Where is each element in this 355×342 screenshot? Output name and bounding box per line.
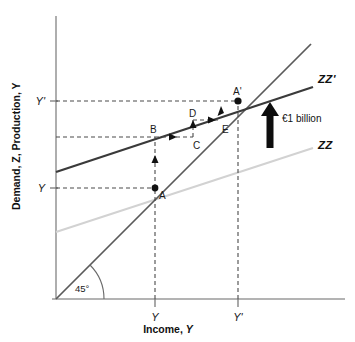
angle-arc <box>90 265 104 299</box>
shift-arrow-group <box>261 102 279 148</box>
point-label-d: D <box>189 108 196 119</box>
x-tick-label-y: Y <box>151 311 159 323</box>
arrow-d-to-e <box>208 117 216 124</box>
demand-curve-zz-prime <box>56 87 313 172</box>
point-label-b: B <box>150 124 157 135</box>
angle-label-45: 45° <box>75 283 90 294</box>
x-axis-title-prefix: Income, <box>143 323 186 335</box>
shift-callout-label: €1 billion <box>282 113 321 124</box>
y-tick-label-y-prime: Y' <box>36 95 46 107</box>
diagram-canvas: Demand, Z, Production, Y Income, Y Y' Y … <box>0 0 355 342</box>
arrow-a-to-b <box>152 155 159 163</box>
x-tick-label-y-prime: Y' <box>233 311 243 323</box>
shift-arrow-shaft <box>267 113 274 148</box>
point-label-e: E <box>222 124 229 135</box>
x-axis-title-symbol: Y <box>186 323 194 335</box>
keynesian-cross-figure: Demand, Z, Production, Y Income, Y Y' Y … <box>0 0 355 342</box>
point-label-a-prime: A' <box>233 86 242 97</box>
arrow-b-to-c <box>169 134 177 141</box>
x-axis-title: Income, Y <box>143 323 194 335</box>
staircase-arrows-group <box>152 106 225 163</box>
point-label-c: C <box>193 140 200 151</box>
arrow-e-to-a-prime <box>218 106 225 116</box>
demand-curve-zz <box>56 148 313 232</box>
point-label-a: A <box>159 190 166 201</box>
axes-group <box>50 16 345 307</box>
guide-lines-group <box>56 101 238 299</box>
y-tick-label-y: Y <box>38 182 46 194</box>
curve-label-zz-prime: ZZ' <box>317 73 337 85</box>
arrow-c-to-d <box>190 120 197 128</box>
y-axis-title: Demand, Z, Production, Y <box>10 82 22 210</box>
point-a-marker <box>152 185 159 192</box>
curve-label-zz: ZZ <box>317 139 333 151</box>
point-a-prime-marker <box>234 97 241 104</box>
forty-five-degree-line <box>56 44 311 299</box>
